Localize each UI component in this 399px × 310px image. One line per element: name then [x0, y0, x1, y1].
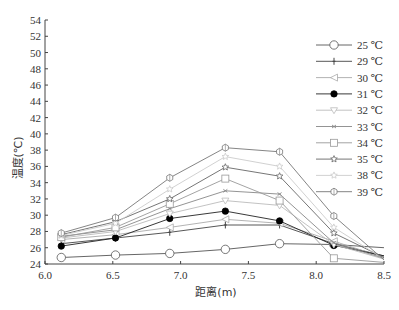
data-point-marker: [330, 255, 337, 262]
temperature-distance-chart: 242628303234363840424446485052546.06.57.…: [0, 0, 399, 310]
data-point-marker: [331, 156, 338, 162]
data-point-marker: [222, 164, 229, 170]
data-point-marker: [276, 218, 282, 224]
y-tick-label: 42: [30, 112, 41, 124]
legend-label: 39 ℃: [357, 186, 383, 198]
series-30c: [58, 216, 384, 258]
x-tick-label: 8.0: [309, 269, 323, 281]
chart-canvas: 242628303234363840424446485052546.06.57.…: [0, 0, 399, 310]
y-tick-label: 52: [30, 30, 41, 42]
y-tick-label: 30: [30, 209, 42, 221]
data-point-marker: [331, 213, 337, 220]
data-point-marker: [57, 253, 65, 261]
data-point-marker: [276, 163, 283, 169]
y-tick-label: 44: [30, 95, 42, 107]
x-tick-label: 6.0: [38, 269, 52, 281]
y-tick-label: 54: [30, 14, 42, 26]
plot-series-group: [57, 144, 384, 262]
y-tick-label: 32: [30, 193, 41, 205]
data-point-marker: [331, 108, 338, 114]
legend-item: 38 ℃: [316, 169, 383, 181]
legend-item: 32 ℃: [316, 104, 383, 116]
data-point-marker: [222, 144, 228, 151]
legend: 25 ℃29 ℃30 ℃31 ℃32 ℃33 ℃34 ℃35 ℃38 ℃39 ℃: [316, 39, 383, 198]
legend-item: 25 ℃: [316, 39, 383, 51]
x-tick-label: 6.5: [106, 269, 120, 281]
legend-label: 34 ℃: [357, 137, 383, 149]
legend-item: 31 ℃: [316, 88, 383, 100]
data-point-marker: [166, 249, 174, 257]
legend-label: 33 ℃: [357, 121, 383, 133]
data-point-marker: [331, 188, 337, 195]
data-point-marker: [112, 214, 118, 221]
data-point-marker: [58, 243, 64, 249]
y-tick-label: 36: [30, 160, 42, 172]
data-point-marker: [331, 172, 338, 178]
data-point-marker: [111, 251, 119, 259]
data-point-marker: [331, 91, 337, 97]
y-tick-label: 26: [30, 242, 42, 254]
data-point-marker: [333, 58, 336, 65]
legend-item: 30 ℃: [316, 72, 383, 84]
legend-label: 31 ℃: [357, 88, 383, 100]
data-point-marker: [275, 239, 283, 247]
legend-label: 30 ℃: [357, 72, 383, 84]
data-point-marker: [331, 139, 338, 146]
legend-item: 33 ℃: [316, 121, 383, 133]
legend-label: 32 ℃: [357, 104, 383, 116]
y-tick-label: 28: [30, 225, 42, 237]
legend-label: 35 ℃: [357, 153, 383, 165]
data-point-marker: [221, 245, 229, 253]
legend-item: 35 ℃: [316, 153, 383, 165]
legend-item: 39 ℃: [316, 186, 383, 198]
legend-label: 38 ℃: [357, 169, 383, 181]
x-tick-label: 7.5: [242, 269, 256, 281]
data-point-marker: [222, 153, 229, 159]
y-tick-label: 40: [30, 128, 42, 140]
y-tick-label: 34: [30, 177, 42, 189]
data-point-marker: [330, 41, 338, 49]
y-axis-title: 温度(℃): [11, 137, 25, 180]
legend-item: 34 ℃: [316, 137, 383, 149]
data-point-marker: [331, 74, 338, 81]
data-point-marker: [222, 208, 228, 214]
data-point-marker: [224, 221, 227, 228]
legend-label: 29 ℃: [357, 55, 383, 67]
data-point-marker: [166, 200, 173, 207]
data-point-marker: [58, 230, 64, 237]
y-tick-label: 38: [30, 144, 42, 156]
x-tick-label: 7.0: [174, 269, 188, 281]
data-point-marker: [222, 175, 229, 182]
legend-item: 29 ℃: [316, 55, 383, 67]
x-tick-label: 8.5: [377, 269, 391, 281]
legend-label: 25 ℃: [357, 39, 383, 51]
data-point-marker: [276, 197, 283, 204]
y-tick-label: 50: [30, 47, 42, 59]
data-point-marker: [167, 174, 173, 181]
y-tick-label: 48: [30, 63, 42, 75]
x-axis-title: 距离(m): [195, 285, 236, 299]
data-point-marker: [277, 148, 283, 155]
y-tick-label: 46: [30, 79, 42, 91]
